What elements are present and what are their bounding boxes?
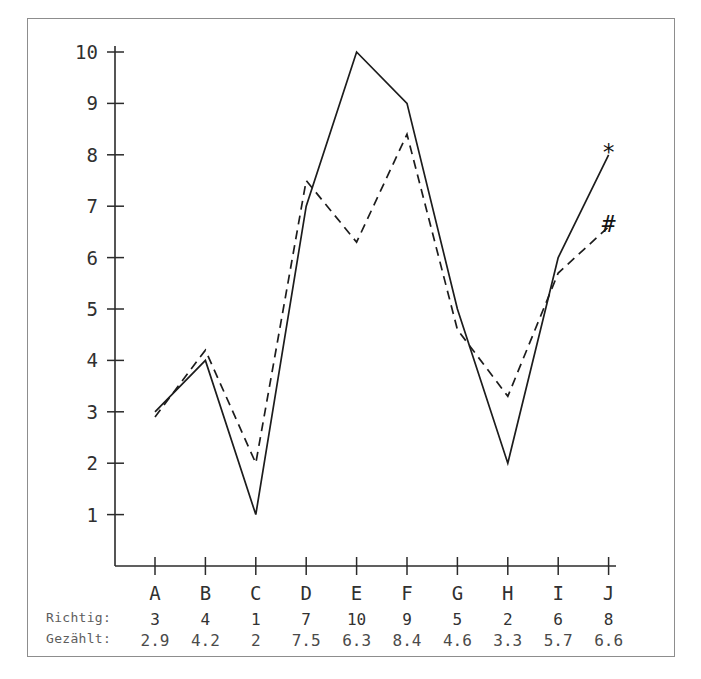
axes-group	[115, 46, 616, 566]
cell-richtig-h: 2	[503, 610, 513, 629]
cell-richtig-j: 8	[604, 610, 614, 629]
y-tick-label: 10	[75, 41, 98, 63]
cell-richtig-g: 5	[453, 610, 463, 629]
y-tick-label: 1	[87, 504, 98, 526]
cell-gezaehlt-b: 4.2	[191, 631, 220, 650]
x-tick-label: E	[351, 582, 362, 604]
x-tick-label: I	[552, 582, 563, 604]
y-tick-label: 5	[87, 298, 98, 320]
cell-gezaehlt-h: 3.3	[493, 631, 522, 650]
x-tick-label: F	[401, 582, 412, 604]
cell-richtig-e: 10	[347, 610, 366, 629]
series-line-richtig	[155, 52, 609, 515]
series-end-markers: *#	[602, 139, 616, 237]
y-tick-label: 2	[87, 452, 98, 474]
cell-richtig-d: 7	[301, 610, 311, 629]
cell-gezaehlt-j: 6.6	[594, 631, 623, 650]
y-tick-label: 4	[87, 349, 98, 371]
cell-richtig-a: 3	[150, 610, 160, 629]
y-tick-label: 6	[87, 247, 98, 269]
table-row-richtig: Richtig: 3 4 1 7 10 9 5 2 6 8	[27, 610, 675, 632]
cell-richtig-c: 1	[251, 610, 261, 629]
cell-gezaehlt-a: 2.9	[141, 631, 170, 650]
cell-gezaehlt-g: 4.6	[443, 631, 472, 650]
row-label-gezaehlt: Gezählt:	[46, 631, 111, 646]
row-label-richtig: Richtig:	[46, 610, 111, 625]
chart-page: 12345678910 ABCDEFGHIJ *# Richtig: 3 4 1…	[0, 0, 701, 679]
cell-gezaehlt-f: 8.4	[393, 631, 422, 650]
cell-richtig-f: 9	[402, 610, 412, 629]
x-tick-label: H	[502, 582, 513, 604]
cell-gezaehlt-c: 2	[251, 631, 261, 650]
cell-richtig-i: 6	[553, 610, 563, 629]
asterisk-marker: *	[602, 139, 616, 165]
x-tick-label: J	[603, 582, 614, 604]
x-tick-label: C	[250, 582, 261, 604]
x-tick-label: A	[149, 582, 161, 604]
hash-marker: #	[602, 211, 616, 237]
table-row-gezaehlt: Gezählt: 2.9 4.2 2 7.5 6.3 8.4 4.6 3.3 5…	[27, 631, 675, 653]
y-tick-label: 3	[87, 401, 98, 423]
line-chart-plot: 12345678910 ABCDEFGHIJ *#	[0, 0, 701, 679]
x-tick-label: D	[300, 582, 311, 604]
x-tick-label: B	[200, 582, 211, 604]
cell-gezaehlt-d: 7.5	[292, 631, 321, 650]
cell-gezaehlt-i: 5.7	[544, 631, 573, 650]
data-value-table: Richtig: 3 4 1 7 10 9 5 2 6 8 Gezählt: 2…	[27, 608, 675, 656]
cell-gezaehlt-e: 6.3	[342, 631, 371, 650]
y-axis-ticks: 12345678910	[75, 41, 124, 526]
x-tick-label: G	[452, 582, 463, 604]
y-tick-label: 8	[87, 144, 98, 166]
cell-richtig-b: 4	[201, 610, 211, 629]
x-axis-ticks: ABCDEFGHIJ	[149, 557, 614, 604]
y-tick-label: 9	[87, 92, 98, 114]
series-group	[155, 52, 609, 515]
y-tick-label: 7	[87, 195, 98, 217]
